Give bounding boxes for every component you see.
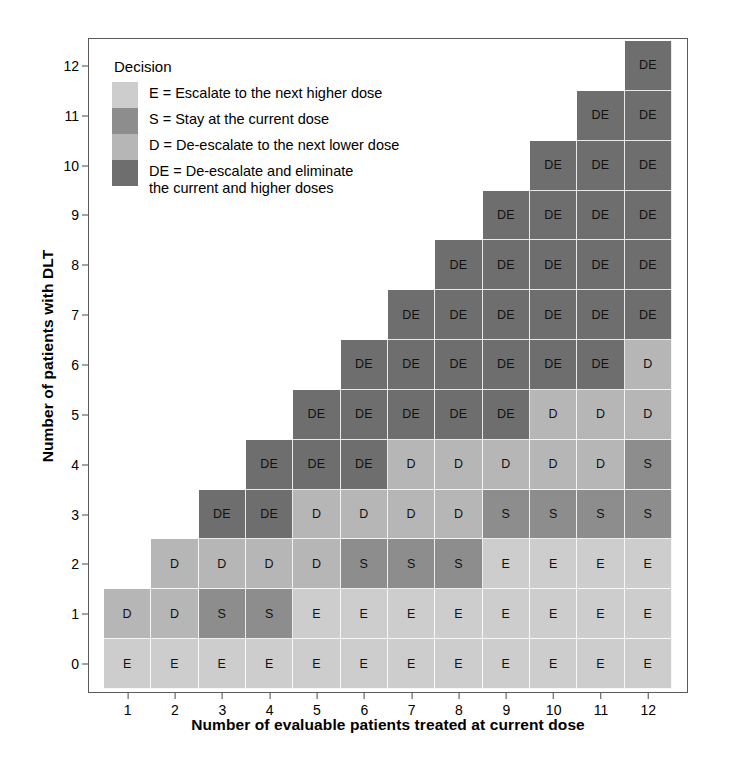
grid-cell: DE xyxy=(483,290,530,340)
grid-cell-empty xyxy=(151,290,198,340)
grid-cell-empty xyxy=(293,290,340,340)
grid-cell-empty xyxy=(246,390,293,440)
x-tick-label: 2 xyxy=(171,693,179,718)
y-tick-label: 6 xyxy=(71,357,88,373)
x-tick-label: 8 xyxy=(455,693,463,718)
grid-cell-empty xyxy=(104,240,151,290)
x-axis-title: Number of evaluable patients treated at … xyxy=(88,716,688,734)
grid-cell-empty xyxy=(341,240,388,290)
grid-cell: DE xyxy=(530,141,577,191)
grid-cell: DE xyxy=(199,490,246,540)
legend-items: E = Escalate to the next higher doseS = … xyxy=(112,82,442,186)
grid-cell: DE xyxy=(435,390,482,440)
grid-cell-empty xyxy=(246,191,293,241)
grid-cell-empty xyxy=(199,191,246,241)
grid-cell-empty xyxy=(483,91,530,141)
legend-item: S = Stay at the current dose xyxy=(112,108,442,134)
grid-cell-empty xyxy=(151,490,198,540)
grid-cell: DE xyxy=(577,191,624,241)
legend-item: DE = De-escalate and eliminate the curre… xyxy=(112,160,442,186)
y-axis-title: Number of patients with DLT xyxy=(39,36,57,676)
grid-cell: DE xyxy=(625,240,672,290)
grid-cell-empty xyxy=(483,141,530,191)
grid-cell: D xyxy=(293,539,340,589)
grid-cell-empty xyxy=(293,340,340,390)
grid-cell-empty xyxy=(483,41,530,91)
grid-cell-empty xyxy=(104,490,151,540)
grid-cell: D xyxy=(483,440,530,490)
grid-cell-empty xyxy=(530,41,577,91)
grid-cell-empty xyxy=(341,191,388,241)
grid-cell: S xyxy=(246,589,293,639)
grid-cell: DE xyxy=(483,240,530,290)
grid-cell: DE xyxy=(530,191,577,241)
grid-cell: E xyxy=(483,589,530,639)
grid-cell: DE xyxy=(435,290,482,340)
grid-cell-empty xyxy=(246,340,293,390)
grid-cell: DE xyxy=(625,290,672,340)
grid-cell: DE xyxy=(435,340,482,390)
y-tick-label: 7 xyxy=(71,307,88,323)
grid-cell: DE xyxy=(435,240,482,290)
grid-cell: E xyxy=(577,639,624,689)
grid-cell: S xyxy=(341,539,388,589)
grid-cell: DE xyxy=(293,440,340,490)
legend-label: D = De-escalate to the next lower dose xyxy=(149,134,399,154)
grid-cell: D xyxy=(577,440,624,490)
grid-cell: S xyxy=(388,539,435,589)
y-tick-label: 2 xyxy=(71,556,88,572)
legend-item: E = Escalate to the next higher dose xyxy=(112,82,442,108)
grid-cell: D xyxy=(104,589,151,639)
legend-label: DE = De-escalate and eliminate the curre… xyxy=(149,160,353,197)
grid-cell: S xyxy=(483,490,530,540)
decision-matrix-figure: Number of patients with DLT Number of ev… xyxy=(0,0,735,761)
grid-cell: D xyxy=(388,440,435,490)
grid-cell: E xyxy=(625,589,672,639)
grid-cell: E xyxy=(293,589,340,639)
grid-cell: D xyxy=(435,490,482,540)
y-tick-label: 8 xyxy=(71,257,88,273)
grid-cell: E xyxy=(341,589,388,639)
grid-cell: DE xyxy=(577,340,624,390)
y-tick-label: 5 xyxy=(71,407,88,423)
legend-swatch-de xyxy=(112,160,138,186)
x-tick-label: 6 xyxy=(360,693,368,718)
grid-cell-empty xyxy=(577,41,624,91)
grid-cell-empty xyxy=(151,191,198,241)
y-tick-label: 3 xyxy=(71,507,88,523)
grid-cell: DE xyxy=(625,191,672,241)
y-tick-label: 12 xyxy=(63,58,88,74)
legend-swatch-d xyxy=(112,134,138,160)
grid-cell: E xyxy=(530,639,577,689)
grid-cell: DE xyxy=(530,340,577,390)
grid-cell: E xyxy=(577,539,624,589)
grid-cell: D xyxy=(577,390,624,440)
legend: Decision E = Escalate to the next higher… xyxy=(112,58,442,186)
grid-cell: DE xyxy=(530,240,577,290)
grid-cell: DE xyxy=(577,91,624,141)
y-tick-label: 1 xyxy=(71,606,88,622)
y-tick-label: 9 xyxy=(71,207,88,223)
grid-cell-empty xyxy=(104,290,151,340)
grid-cell: E xyxy=(483,539,530,589)
grid-cell: D xyxy=(341,490,388,540)
grid-cell: DE xyxy=(483,191,530,241)
grid-cell: S xyxy=(577,490,624,540)
grid-cell: DE xyxy=(577,240,624,290)
grid-cell-empty xyxy=(530,91,577,141)
grid-cell: D xyxy=(199,539,246,589)
grid-cell: E xyxy=(151,639,198,689)
grid-cell: DE xyxy=(577,141,624,191)
x-tick-label: 7 xyxy=(408,693,416,718)
grid-cell-empty xyxy=(341,290,388,340)
grid-cell: D xyxy=(435,440,482,490)
grid-cell-empty xyxy=(246,290,293,340)
grid-cell: E xyxy=(625,539,672,589)
grid-cell: DE xyxy=(530,290,577,340)
grid-cell: D xyxy=(625,390,672,440)
y-tick-label: 0 xyxy=(71,656,88,672)
grid-cell: DE xyxy=(577,290,624,340)
grid-cell-empty xyxy=(435,191,482,241)
grid-cell: DE xyxy=(625,41,672,91)
x-tick-label: 1 xyxy=(124,693,132,718)
